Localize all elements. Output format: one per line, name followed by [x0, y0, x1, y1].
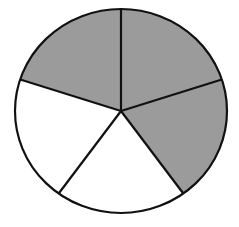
fraction-circle-diagram	[0, 0, 239, 227]
